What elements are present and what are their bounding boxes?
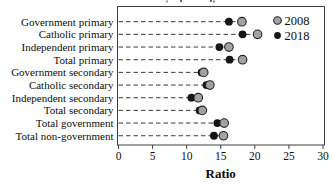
dot-2018 (239, 30, 247, 38)
dot-2008 (199, 68, 208, 77)
category-label: Government primary (21, 16, 114, 28)
category-label: Independent secondary (12, 92, 114, 104)
x-tick-label: 10 (181, 150, 193, 162)
chart-figure: Government primaryCatholic primaryIndepe… (0, 0, 333, 186)
dot-2008 (198, 106, 207, 115)
category-label: Total government (36, 117, 114, 129)
x-tick-label: 30 (317, 150, 329, 162)
x-axis-title: Ratio (206, 166, 236, 181)
x-tick-label: 20 (249, 150, 261, 162)
x-tick-label: 15 (215, 150, 227, 162)
x-tick-label: 25 (283, 150, 295, 162)
category-label: Government secondary (11, 66, 114, 78)
category-label: Total primary (53, 54, 114, 66)
legend-marker-2018 (274, 32, 281, 39)
x-tick-label: 5 (150, 150, 156, 162)
legend-label-2018: 2018 (285, 29, 310, 43)
dot-2018 (225, 18, 233, 26)
dot-2008 (220, 119, 229, 128)
category-label: Total non-government (16, 130, 114, 142)
category-label: Catholic primary (39, 28, 114, 40)
category-label: Catholic secondary (29, 79, 114, 91)
dot-2008 (238, 17, 247, 26)
dot-2008 (219, 131, 228, 140)
data-rows: Government primaryCatholic primaryIndepe… (11, 16, 262, 142)
cropped-title-remnant (180, 0, 182, 2)
dot-2008 (194, 93, 203, 102)
dot-2018 (226, 56, 234, 64)
dot-2008 (238, 55, 247, 64)
student-teacher-ratio-dot-plot: Government primaryCatholic primaryIndepe… (0, 0, 333, 186)
dot-2008 (206, 81, 215, 90)
x-tick-label: 0 (116, 150, 122, 162)
dot-2008 (253, 30, 262, 39)
legend-marker-2008 (274, 17, 282, 25)
legend: 2008 2018 (274, 14, 310, 43)
category-label: Independent primary (22, 41, 114, 53)
dot-2008 (225, 43, 234, 52)
category-label: Total secondary (44, 104, 114, 116)
x-axis: 051015202530 (116, 145, 329, 162)
dot-2018 (210, 132, 218, 140)
dot-2018 (215, 43, 223, 51)
legend-label-2008: 2008 (285, 14, 310, 28)
